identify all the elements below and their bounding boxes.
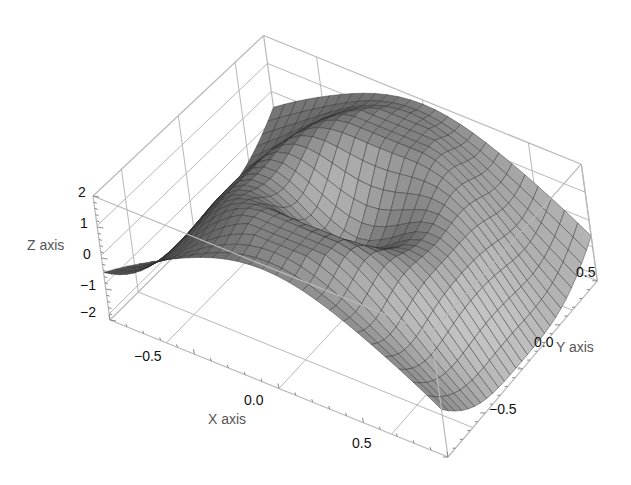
y-axis-label: Y axis: [556, 340, 594, 354]
x-tick-0.0: 0.0: [244, 393, 263, 407]
y-tick-neg0.5: −0.5: [489, 402, 517, 416]
z-tick-neg2: −2: [80, 305, 96, 319]
x-tick-0.5: 0.5: [352, 436, 371, 450]
y-tick-0.0: 0.0: [534, 335, 553, 349]
z-tick-1: 1: [80, 216, 88, 230]
surface-plot: [0, 0, 631, 485]
z-tick-2: 2: [78, 185, 86, 199]
z-tick-neg1: −1: [80, 278, 96, 292]
surface-mesh: [103, 93, 591, 411]
x-axis-label: X axis: [208, 412, 246, 426]
x-tick-neg0.5: −0.5: [134, 349, 162, 363]
z-axis-label: Z axis: [27, 238, 64, 252]
y-tick-0.5: 0.5: [576, 265, 595, 279]
z-tick-0: 0: [83, 247, 91, 261]
